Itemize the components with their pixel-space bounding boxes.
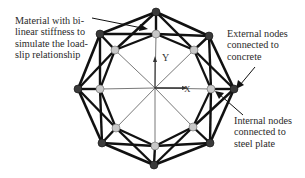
x-axis-label: X (184, 84, 191, 94)
spoke-6 (100, 88, 155, 89)
external-node-7 (96, 30, 104, 38)
internal-node-5 (112, 124, 120, 132)
diag-spring-b-0 (156, 34, 209, 36)
diag-spring-b-7 (115, 12, 156, 50)
outer-spring-0 (156, 12, 209, 36)
internal-node-4 (151, 142, 159, 150)
spoke-5 (116, 88, 155, 128)
diag-spring-a-1 (209, 36, 211, 89)
y-axis-arrowhead (153, 56, 157, 62)
internal-node-1 (190, 46, 198, 54)
external-arrow-line (240, 67, 255, 85)
material-label: Material with bi- linear stiffness to si… (15, 15, 95, 61)
diag-spring-b-2 (210, 89, 211, 143)
diag-spring-a-5 (100, 89, 102, 143)
outer-spring-5 (78, 89, 102, 143)
external-node-1 (205, 32, 213, 40)
inner-spring-7 (115, 34, 156, 50)
external-node-0 (152, 8, 160, 16)
external-node-2 (230, 85, 238, 93)
diag-spring-a-2 (193, 89, 234, 127)
y-axis-label: Y (162, 52, 169, 63)
internal-node-3 (189, 123, 197, 131)
internal-nodes-label: Internal nodes connected to steel plate (234, 115, 305, 149)
spoke-7 (115, 50, 155, 88)
outer-spring-7 (100, 12, 156, 34)
external-node-4 (150, 161, 158, 169)
internal-node-6 (96, 85, 104, 93)
spoke-1 (155, 50, 194, 88)
diag-spring-a-0 (156, 12, 194, 50)
inner-spring-1 (194, 50, 211, 89)
internal-node-0 (152, 30, 160, 38)
diag-spring-b-5 (78, 89, 116, 128)
internal-node-2 (207, 85, 215, 93)
inner-spring-6 (100, 50, 115, 89)
external-node-6 (74, 85, 82, 93)
external-node-3 (206, 139, 214, 147)
external-node-5 (98, 139, 106, 147)
inner-spring-2 (193, 89, 211, 127)
external-nodes-label: External nodes connected to concrete (227, 28, 305, 62)
internal-node-7 (111, 46, 119, 54)
